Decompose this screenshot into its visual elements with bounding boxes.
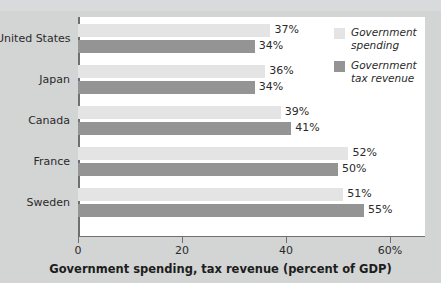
cut-off-title-strip <box>0 0 441 11</box>
bar[interactable] <box>78 65 265 78</box>
bar-row: 41% <box>78 122 425 135</box>
bar-value-label: 50% <box>342 161 366 176</box>
category-label: Japan <box>0 73 70 86</box>
bar-value-label: 39% <box>285 104 309 119</box>
tick-label: 20 <box>175 244 189 257</box>
bar-value-label: 36% <box>269 63 293 78</box>
tick-mark <box>182 237 183 243</box>
bar[interactable] <box>78 163 338 176</box>
bar[interactable] <box>78 40 255 53</box>
bar-group: 51%55% <box>78 188 425 229</box>
tick-mark <box>286 237 287 243</box>
bar-row: 50% <box>78 163 425 176</box>
x-axis-title: Government spending, tax revenue (percen… <box>0 262 441 276</box>
tick-label: 40 <box>279 244 293 257</box>
bar-row: 51% <box>78 188 425 201</box>
bar-row: 55% <box>78 204 425 217</box>
bar[interactable] <box>78 188 343 201</box>
category-label: France <box>0 155 70 168</box>
bar-value-label: 34% <box>259 79 283 94</box>
bar-value-label: 41% <box>295 120 319 135</box>
category-label: Canada <box>0 114 70 127</box>
legend-swatch-taxrev <box>334 61 345 72</box>
bar-value-label: 52% <box>352 145 376 160</box>
category-label: United States <box>0 32 70 45</box>
bar[interactable] <box>78 24 270 37</box>
bar-group: 39%41% <box>78 106 425 147</box>
bar-value-label: 34% <box>259 38 283 53</box>
tick-mark <box>390 237 391 243</box>
tick-label: 60% <box>378 244 402 257</box>
bar-value-label: 37% <box>274 22 298 37</box>
bar-group: 52%50% <box>78 147 425 188</box>
legend-label: Government spending <box>351 26 430 52</box>
legend-item[interactable]: Government spending <box>334 26 430 52</box>
bar[interactable] <box>78 122 291 135</box>
bar-value-label: 51% <box>347 186 371 201</box>
chart-legend: Government spendingGovernment tax revenu… <box>334 26 430 92</box>
bar[interactable] <box>78 106 281 119</box>
bar[interactable] <box>78 204 364 217</box>
legend-item[interactable]: Government tax revenue <box>334 59 430 85</box>
legend-swatch-spending <box>334 28 345 39</box>
bar-row: 52% <box>78 147 425 160</box>
category-axis-labels: United StatesJapanCanadaFranceSweden <box>0 17 78 237</box>
chart-figure: United StatesJapanCanadaFranceSweden 37%… <box>0 0 441 283</box>
tick-label: 0 <box>75 244 82 257</box>
category-label: Sweden <box>0 196 70 209</box>
legend-label: Government tax revenue <box>351 59 430 85</box>
bar-value-label: 55% <box>368 202 392 217</box>
bar[interactable] <box>78 81 255 94</box>
tick-mark <box>78 237 79 243</box>
bar-row: 39% <box>78 106 425 119</box>
bar[interactable] <box>78 147 348 160</box>
